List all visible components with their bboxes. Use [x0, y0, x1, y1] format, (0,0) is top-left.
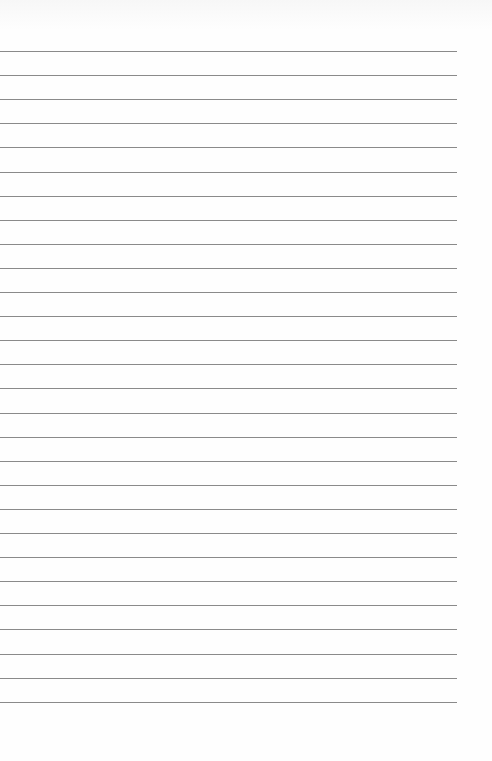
ruled-line: [0, 413, 457, 414]
ruled-line: [0, 629, 457, 630]
ruled-line: [0, 437, 457, 438]
ruled-line: [0, 99, 457, 100]
ruled-line: [0, 654, 457, 655]
ruled-line: [0, 75, 457, 76]
ruled-line: [0, 268, 457, 269]
ruled-line: [0, 196, 457, 197]
ruled-line: [0, 388, 457, 389]
ruled-line: [0, 533, 457, 534]
lined-paper-page: [0, 0, 492, 761]
ruled-line: [0, 172, 457, 173]
ruled-line: [0, 557, 457, 558]
ruled-line: [0, 51, 457, 52]
ruled-line: [0, 485, 457, 486]
ruled-line: [0, 244, 457, 245]
ruled-line: [0, 581, 457, 582]
ruled-line: [0, 678, 457, 679]
ruled-line: [0, 364, 457, 365]
ruled-line: [0, 292, 457, 293]
ruled-line: [0, 123, 457, 124]
ruled-line: [0, 509, 457, 510]
ruled-line: [0, 340, 457, 341]
ruled-line: [0, 461, 457, 462]
ruled-line: [0, 316, 457, 317]
ruled-line: [0, 220, 457, 221]
ruled-line: [0, 147, 457, 148]
ruled-line: [0, 605, 457, 606]
ruled-line: [0, 702, 457, 703]
